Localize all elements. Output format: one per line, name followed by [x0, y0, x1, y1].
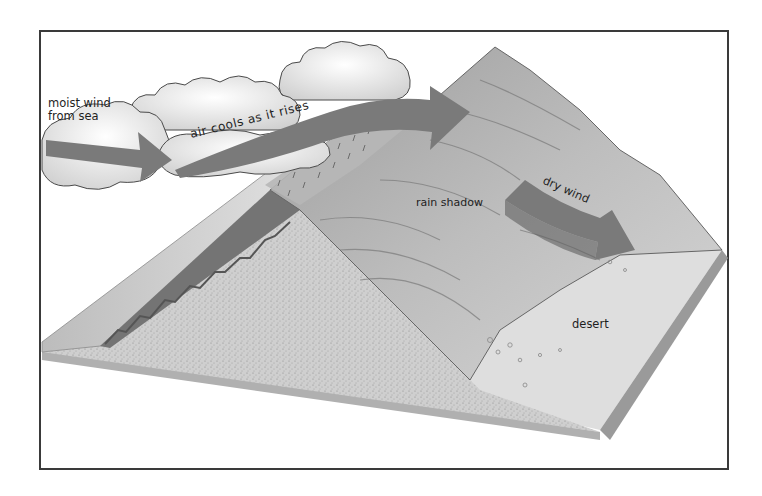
rain-shadow-illustration	[0, 0, 762, 496]
rain-shadow-label: rain shadow	[416, 196, 483, 209]
moist-wind-label: moist wind from sea	[48, 97, 111, 123]
moist-wind-label-line2: from sea	[48, 110, 111, 123]
desert-label: desert	[572, 318, 609, 331]
